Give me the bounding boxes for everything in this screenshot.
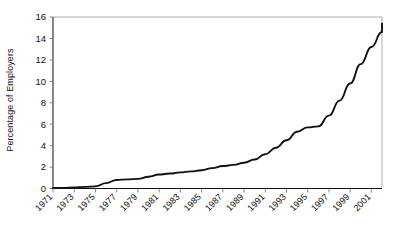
x-tick-label: 1995 <box>288 192 309 213</box>
plot-frame <box>53 17 382 188</box>
x-tick-label: 1979 <box>118 192 139 213</box>
x-tick-label: 1981 <box>139 192 160 213</box>
plot-canvas: 0246810121416 19711973197519771979198119… <box>0 0 400 226</box>
y-tick-label: 8 <box>41 97 46 108</box>
y-tick-label: 10 <box>35 76 46 87</box>
y-tick-label: 4 <box>41 140 46 151</box>
x-axis-ticks: 1971197319751977197919811983198519871989… <box>33 189 373 214</box>
x-tick-label: 1991 <box>245 192 266 213</box>
x-tick-label: 1971 <box>33 192 54 213</box>
x-tick-label: 1975 <box>76 192 97 213</box>
x-tick-label: 1989 <box>224 192 245 213</box>
data-series-line <box>53 23 382 188</box>
y-tick-label: 16 <box>35 11 46 22</box>
x-tick-label: 1993 <box>267 192 288 213</box>
line-chart: Percentage of Employers 0246810121416 19… <box>0 0 400 226</box>
y-axis-ticks: 0246810121416 <box>35 11 53 194</box>
y-tick-label: 2 <box>41 161 46 172</box>
x-tick-label: 1997 <box>309 192 330 213</box>
y-tick-label: 14 <box>35 33 46 44</box>
y-tick-label: 6 <box>41 119 46 130</box>
x-tick-label: 1977 <box>97 192 118 213</box>
x-tick-label: 1987 <box>203 192 224 213</box>
x-tick-label: 1983 <box>161 192 182 213</box>
x-tick-label: 1985 <box>182 192 203 213</box>
x-tick-label: 1999 <box>330 192 351 213</box>
axis-lines <box>53 17 382 189</box>
y-tick-label: 0 <box>41 183 46 194</box>
y-tick-label: 12 <box>35 54 46 65</box>
x-tick-label: 2001 <box>352 192 373 213</box>
x-tick-label: 1973 <box>54 192 75 213</box>
